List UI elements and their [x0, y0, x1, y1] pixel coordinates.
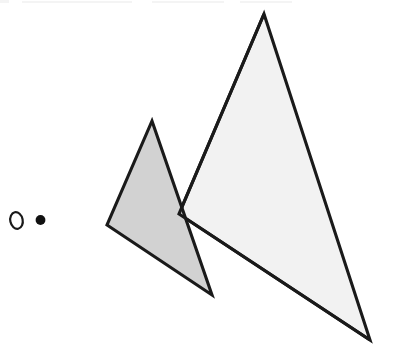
figure-canvas: [0, 0, 401, 359]
solid-point-icon: [36, 215, 46, 225]
origin-circle-icon: [9, 211, 25, 230]
geometry-figure-svg: [0, 0, 401, 359]
